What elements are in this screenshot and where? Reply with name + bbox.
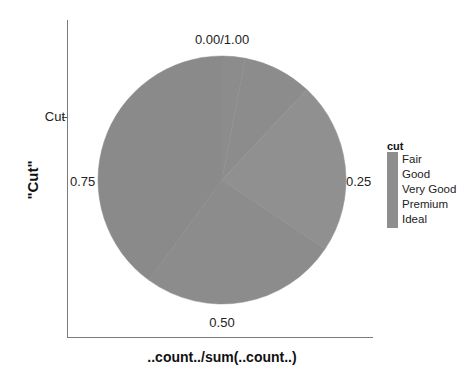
legend-item-premium: Premium bbox=[402, 198, 448, 210]
legend-item-good: Good bbox=[402, 168, 430, 180]
angle-label-right: 0.25 bbox=[346, 174, 371, 189]
angle-label-bottom: 0.50 bbox=[209, 315, 234, 330]
legend-color-key bbox=[387, 152, 398, 228]
angle-label-left: 0.75 bbox=[70, 174, 95, 189]
legend-item-ideal: Ideal bbox=[402, 213, 427, 225]
legend-item-fair: Fair bbox=[402, 153, 422, 165]
angle-label-top: 0.00/1.00 bbox=[195, 32, 249, 47]
legend-title: cut bbox=[387, 140, 404, 152]
legend-item-very-good: Very Good bbox=[402, 183, 456, 195]
pie-slices bbox=[98, 56, 346, 304]
